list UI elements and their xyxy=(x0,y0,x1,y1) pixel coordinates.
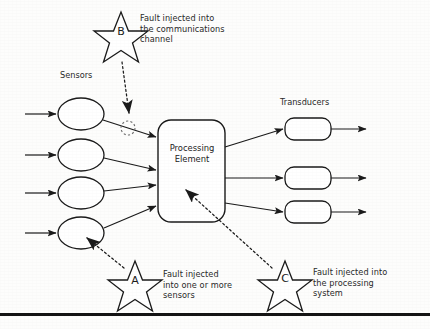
star-a-letter: A xyxy=(115,274,155,287)
transducer-1[interactable] xyxy=(285,118,331,140)
transducer-2[interactable] xyxy=(285,167,331,189)
processing-element[interactable] xyxy=(158,120,225,222)
sensor-nodes xyxy=(58,98,104,249)
sensor-2[interactable] xyxy=(58,139,104,171)
fault-pointer-b xyxy=(122,62,129,113)
bottom-rule xyxy=(0,313,430,316)
pe-to-transducer-links xyxy=(225,129,283,212)
link-transducer-1 xyxy=(225,129,283,147)
star-c-letter: C xyxy=(265,272,305,285)
link-sensor-3 xyxy=(104,185,156,191)
sensor-4[interactable] xyxy=(58,217,104,249)
star-b-letter: B xyxy=(101,25,141,38)
transducer-3[interactable] xyxy=(285,201,331,223)
transducers-label: Transducers xyxy=(280,97,329,107)
sensor-1[interactable] xyxy=(58,98,104,130)
annotation-a-text: Fault injected into one or more sensors xyxy=(163,269,232,301)
annotation-b-text: Fault injected into the communications c… xyxy=(140,13,225,45)
fault-pointer-c xyxy=(186,190,272,268)
transducer-output-arrows xyxy=(331,129,366,212)
processing-element-label: Processing Element xyxy=(158,143,226,165)
sensor-3[interactable] xyxy=(58,177,104,209)
sensor-to-pe-links xyxy=(103,120,156,228)
star-c[interactable] xyxy=(258,261,312,311)
transducer-nodes xyxy=(285,118,331,223)
sensor-input-arrows xyxy=(25,114,56,233)
link-sensor-4 xyxy=(104,206,156,228)
annotation-c-text: Fault injected into the processing syste… xyxy=(313,267,387,299)
figure-canvas: Sensors Transducers Processing Element B… xyxy=(0,0,430,329)
sensors-label: Sensors xyxy=(60,70,92,80)
link-transducer-3 xyxy=(225,203,283,212)
link-sensor-2 xyxy=(104,158,156,170)
